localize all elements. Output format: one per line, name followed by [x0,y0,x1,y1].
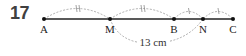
single-tick-icon [189,8,190,14]
point-B [172,17,176,21]
point-label-M: M [105,23,115,35]
measurement-label: 13 cm [139,36,167,48]
point-C [231,17,235,21]
arc-NC [203,12,233,20]
point-label-A: A [40,23,48,35]
point-N [201,17,205,21]
point-label-N: N [199,23,207,35]
point-A [42,17,46,21]
point-M [108,17,112,21]
segment-diagram: 13 cm A M B N C [0,0,246,56]
point-label-B: B [170,23,177,35]
arc-BN [174,12,203,20]
point-label-C: C [229,23,236,35]
single-tick-icon [218,8,219,14]
